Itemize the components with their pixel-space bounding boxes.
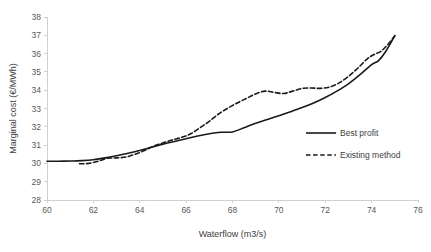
y-tick-label: 37 [32, 30, 42, 40]
chart-container: 2829303132333435363738 60626466687072747… [0, 0, 431, 252]
x-axis-title: Waterflow (m3/s) [199, 229, 267, 239]
y-tick-label: 31 [32, 140, 42, 150]
x-tick-label: 66 [181, 205, 191, 215]
y-tick-label: 36 [32, 49, 42, 59]
x-tick-label: 62 [89, 205, 99, 215]
y-axis-tick-labels: 2829303132333435363738 [32, 12, 47, 205]
data-series [47, 36, 395, 164]
chart-legend: Best profitExisting method [306, 128, 401, 160]
line-chart: 2829303132333435363738 60626466687072747… [0, 0, 431, 252]
y-tick-label: 34 [32, 85, 42, 95]
chart-axes [47, 17, 418, 200]
x-tick-label: 74 [367, 205, 377, 215]
y-tick-label: 33 [32, 104, 42, 114]
legend-label-2: Existing method [340, 150, 401, 160]
legend-label-1: Best profit [340, 128, 379, 138]
y-tick-label: 28 [32, 195, 42, 205]
x-tick-label: 72 [321, 205, 331, 215]
series-line-2 [79, 36, 394, 164]
y-axis-title: Marginal cost (€/MWh) [8, 63, 18, 154]
x-tick-label: 68 [228, 205, 238, 215]
x-tick-label: 76 [413, 205, 423, 215]
y-tick-label: 30 [32, 158, 42, 168]
x-tick-label: 64 [135, 205, 145, 215]
x-tick-label: 60 [42, 205, 52, 215]
y-tick-label: 29 [32, 177, 42, 187]
x-axis-tick-labels: 606264666870727476 [42, 200, 423, 215]
y-tick-label: 38 [32, 12, 42, 22]
series-line-1 [47, 36, 395, 162]
y-tick-label: 32 [32, 122, 42, 132]
y-tick-label: 35 [32, 67, 42, 77]
x-tick-label: 70 [274, 205, 284, 215]
